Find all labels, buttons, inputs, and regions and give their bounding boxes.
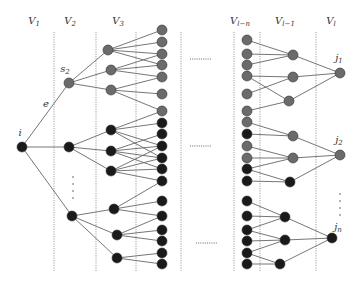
edge-i-s2 (22, 83, 69, 147)
edge-i-b2 (22, 147, 72, 216)
edge-P4-j2 (293, 136, 340, 155)
node-r14 (157, 196, 167, 206)
node-r1 (157, 25, 167, 35)
node-L6 (242, 106, 252, 116)
edge-m2-r5 (111, 70, 162, 77)
node-r2 (157, 37, 167, 47)
edge-m4-r8 (111, 123, 162, 130)
node-label-j1: j1 (333, 52, 343, 65)
node-m1 (103, 45, 113, 55)
layer-label-V1: V1 (28, 15, 40, 28)
node-m6 (106, 166, 116, 176)
vertical-ellipsis-dot-1-2 (339, 207, 341, 209)
node-label-i: i (18, 127, 21, 138)
edge-L15-P7 (247, 217, 285, 230)
node-label-s2: s2 (60, 63, 70, 76)
node-L3 (242, 60, 252, 70)
edge-m6-r10 (111, 146, 162, 171)
edge-m6-r13 (111, 171, 162, 181)
edge-L4-P3 (247, 76, 289, 101)
vertical-ellipsis-dot-0-2 (72, 190, 74, 192)
edge-s2-m3 (69, 83, 111, 90)
node-r18 (157, 248, 167, 258)
node-P3 (284, 96, 294, 106)
edge-m7-r15 (114, 209, 162, 216)
node-m3 (106, 85, 116, 95)
layer-label-V2: V2 (64, 15, 76, 28)
node-label-j2: j2 (333, 134, 343, 147)
edge-P8-jn (285, 238, 332, 240)
edge-b2-m8 (72, 216, 117, 235)
node-L1 (242, 35, 252, 45)
node-P2 (288, 72, 298, 82)
edge-m1-r1 (108, 30, 162, 50)
layer-label-V3: V3 (112, 15, 124, 28)
edge-L6-P3 (247, 101, 289, 111)
edge-a2-m4 (69, 130, 111, 147)
node-r16 (157, 225, 167, 235)
layer-label-Vl: Vl (326, 15, 335, 28)
node-L2 (242, 49, 252, 59)
edge-L11-P5 (247, 158, 293, 169)
edge-L15-P8 (247, 230, 285, 240)
node-m2 (106, 65, 116, 75)
edge-L12-P6 (247, 181, 290, 182)
node-P8 (280, 235, 290, 245)
node-L18 (242, 259, 252, 269)
node-r8 (157, 118, 167, 128)
node-L7 (242, 117, 252, 127)
node-jn (327, 233, 337, 243)
layer-label-Vl-1: Vl−1 (275, 15, 295, 28)
node-L13 (242, 196, 252, 206)
edge-P1-j1 (293, 55, 340, 73)
node-L14 (242, 211, 252, 221)
vertical-ellipsis-dot-0-3 (72, 197, 74, 199)
edge-L5-P2 (247, 77, 293, 94)
node-r5 (157, 72, 167, 82)
layer-labels: V1V2V3Vl−nVl−1Vl (28, 15, 336, 28)
node-P6 (285, 177, 295, 187)
node-P9 (275, 259, 285, 269)
node-label-e: e (43, 98, 49, 109)
node-r12 (157, 164, 167, 174)
node-P4 (288, 131, 298, 141)
node-L9 (242, 141, 252, 151)
node-r15 (157, 211, 167, 221)
node-r10 (157, 141, 167, 151)
node-r3 (157, 49, 167, 59)
node-j2 (335, 150, 345, 160)
node-r6 (157, 89, 167, 99)
vertical-ellipsis-dot-0-0 (72, 176, 74, 178)
edge-b2-m9 (72, 216, 117, 258)
node-L5 (242, 89, 252, 99)
node-L11 (242, 164, 252, 174)
node-L16 (242, 236, 252, 246)
edge-P7-jn (285, 217, 332, 238)
node-j1 (335, 68, 345, 78)
layered-graph-diagram: V1V2V3Vl−nVl−1Vl is2ej1j2jn (0, 0, 364, 287)
edge-P5-j2 (293, 155, 340, 158)
edge-L14-P7 (247, 216, 285, 217)
node-label-jn: jn (332, 221, 342, 234)
node-P5 (288, 153, 298, 163)
node-L10 (242, 153, 252, 163)
edge-s2-m1 (69, 50, 108, 83)
edge-s2-m2 (69, 70, 111, 83)
node-r7 (157, 106, 167, 116)
edge-m9-r19 (117, 258, 162, 264)
node-s2 (64, 78, 74, 88)
edge-L9-P5 (247, 146, 293, 158)
node-r9 (157, 129, 167, 139)
edge-L17-P8 (247, 240, 285, 253)
vertical-ellipsis-dot-0-1 (72, 183, 74, 185)
edge-L13-P7 (247, 201, 285, 217)
node-m9 (112, 253, 122, 263)
node-a2 (64, 142, 74, 152)
node-L8 (242, 129, 252, 139)
node-m4 (106, 125, 116, 135)
node-b2 (67, 211, 77, 221)
node-r13 (157, 176, 167, 186)
edge-L1-P1 (247, 40, 293, 55)
edge-L3-P1 (247, 55, 293, 65)
node-r11 (157, 153, 167, 163)
